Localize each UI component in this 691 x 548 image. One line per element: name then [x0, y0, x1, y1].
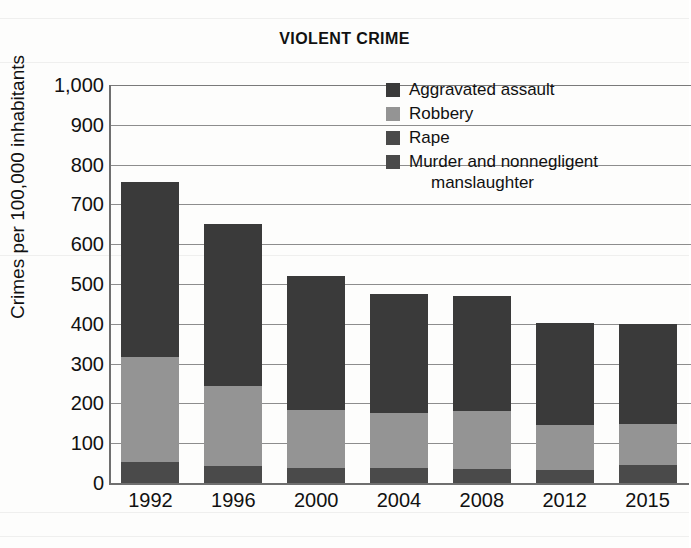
x-tick-label: 2008 [442, 489, 522, 512]
legend-item: Murder and nonnegligentmanslaughter [386, 151, 656, 193]
bar-segment [453, 296, 511, 411]
bar-segment [619, 324, 677, 424]
bar-segment [619, 424, 677, 465]
legend-label: Robbery [409, 103, 473, 124]
bar-segment [287, 468, 345, 481]
x-tick-label: 1996 [193, 489, 273, 512]
legend-swatch-icon [386, 83, 400, 97]
bar-segment [619, 481, 677, 483]
bar-segment [536, 481, 594, 483]
legend-label: Aggravated assault [409, 79, 555, 100]
bar-segment [536, 323, 594, 425]
bar-segment [370, 468, 428, 481]
x-tick-label: 2012 [525, 489, 605, 512]
x-tick-label: 1992 [110, 489, 190, 512]
legend-item: Robbery [386, 103, 656, 124]
bar-2004 [370, 294, 428, 483]
x-tick-label: 2004 [359, 489, 439, 512]
bar-segment [287, 481, 345, 483]
legend-label-line2: manslaughter [409, 172, 598, 193]
legend-swatch-icon [386, 107, 400, 121]
bar-1996 [204, 224, 262, 483]
bar-segment [121, 182, 179, 358]
x-tick-label: 2015 [608, 489, 688, 512]
legend-swatch-icon [386, 155, 400, 169]
y-tick-label: 200 [6, 392, 104, 415]
bar-segment [287, 276, 345, 410]
legend-swatch-icon [386, 131, 400, 145]
bar-segment [121, 479, 179, 483]
bar-2008 [453, 296, 511, 483]
bar-2012 [536, 323, 594, 483]
bar-segment [619, 465, 677, 481]
bar-segment [287, 410, 345, 468]
bar-1992 [121, 182, 179, 483]
legend-label: Rape [409, 127, 450, 148]
bar-segment [121, 462, 179, 479]
bar-segment [204, 224, 262, 386]
bar-segment [536, 470, 594, 481]
y-tick-label: 0 [6, 472, 104, 495]
bar-segment [536, 425, 594, 470]
legend-label: Murder and nonnegligentmanslaughter [409, 151, 598, 193]
bar-segment [453, 469, 511, 481]
bar-segment [453, 481, 511, 483]
x-tick-label: 2000 [276, 489, 356, 512]
chart-legend: Aggravated assaultRobberyRapeMurder and … [386, 79, 656, 196]
bar-2000 [287, 276, 345, 483]
y-axis-title: Crimes per 100,000 inhabitants [7, 0, 29, 387]
x-axis-line [109, 483, 689, 485]
bar-segment [204, 480, 262, 483]
bar-segment [204, 466, 262, 480]
bar-segment [121, 357, 179, 462]
bar-segment [370, 294, 428, 413]
bar-segment [370, 481, 428, 483]
legend-item: Rape [386, 127, 656, 148]
legend-item: Aggravated assault [386, 79, 656, 100]
bar-segment [453, 411, 511, 469]
bar-segment [204, 386, 262, 466]
y-tick-label: 100 [6, 432, 104, 455]
x-axis-tick-labels: 1992199620002004200820122015 [109, 489, 689, 523]
bar-2015 [619, 324, 677, 483]
bar-segment [370, 413, 428, 468]
